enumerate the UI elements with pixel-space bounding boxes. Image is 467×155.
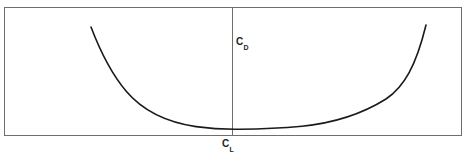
horizontal-axis-label: CL [222, 139, 234, 151]
vertical-axis-label-subscript: D [243, 44, 248, 51]
horizontal-axis-label-subscript: L [229, 146, 233, 153]
vertical-axis-label: CD [236, 37, 248, 49]
drag-polar-figure: CD CL [0, 0, 467, 155]
plot-frame-border [4, 7, 462, 136]
